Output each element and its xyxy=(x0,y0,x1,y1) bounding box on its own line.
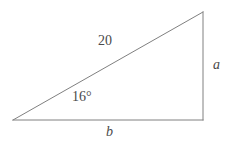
side-b-label: b xyxy=(106,125,113,139)
hypotenuse-line xyxy=(13,12,203,120)
side-a-label: a xyxy=(213,58,220,72)
triangle-outline xyxy=(13,12,203,120)
angle-measure-label: 16° xyxy=(72,90,92,104)
triangle-figure xyxy=(0,0,238,149)
hypotenuse-length-label: 20 xyxy=(98,34,112,48)
triangle-diagram-canvas: 20 16° a b xyxy=(0,0,238,149)
